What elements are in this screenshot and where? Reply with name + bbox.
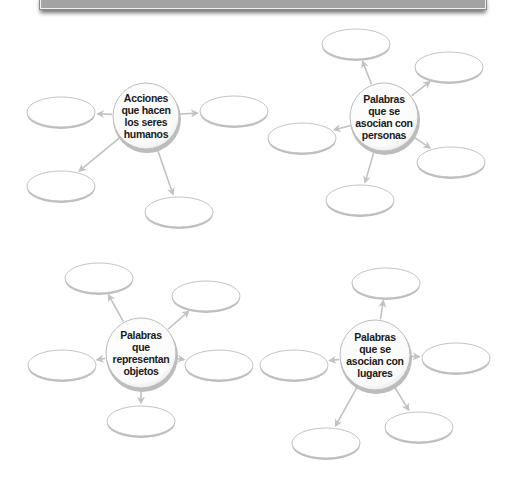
- answer-slot-objetos-3[interactable]: [185, 350, 253, 380]
- arrow-lugares-4: [394, 386, 409, 410]
- answer-slot-personas-2[interactable]: [268, 123, 336, 153]
- arrow-acciones-0: [98, 114, 112, 115]
- center-circle-personas: [350, 83, 420, 155]
- arrow-objetos-1: [168, 311, 188, 329]
- answer-slot-lugares-4[interactable]: [385, 412, 453, 442]
- arrow-personas-2: [334, 126, 350, 130]
- answer-slot-lugares-1[interactable]: [260, 350, 328, 380]
- answer-slot-acciones-2[interactable]: [27, 171, 95, 201]
- answer-slot-objetos-0[interactable]: [65, 263, 133, 293]
- answer-slots-layer: [27, 29, 490, 460]
- arrow-lugares-0: [380, 301, 383, 319]
- answer-slot-acciones-1[interactable]: [200, 96, 268, 126]
- center-circle-objetos: [106, 318, 178, 392]
- arrow-personas-4: [365, 151, 374, 183]
- arrow-acciones-2: [79, 138, 119, 171]
- answer-slot-lugares-2[interactable]: [422, 343, 490, 373]
- arrow-acciones-3: [157, 148, 173, 194]
- answer-slot-acciones-3[interactable]: [145, 197, 213, 227]
- answer-slot-objetos-4[interactable]: [107, 406, 175, 436]
- answer-slot-acciones-0[interactable]: [27, 97, 95, 127]
- answer-slot-objetos-1[interactable]: [172, 281, 240, 311]
- arrow-lugares-3: [336, 386, 358, 425]
- answer-slot-personas-4[interactable]: [326, 185, 394, 215]
- center-circles-layer: [106, 83, 420, 394]
- arrow-objetos-0: [109, 295, 124, 321]
- center-circle-lugares: [340, 320, 412, 394]
- answer-slot-objetos-2[interactable]: [28, 350, 96, 380]
- center-circle-acciones: [113, 83, 181, 153]
- arrow-personas-3: [413, 137, 430, 148]
- arrow-objetos-2: [97, 358, 105, 359]
- answer-slot-lugares-0[interactable]: [352, 268, 420, 298]
- answer-slot-personas-3[interactable]: [417, 147, 485, 177]
- answer-slot-personas-1[interactable]: [415, 52, 483, 82]
- answer-slot-personas-0[interactable]: [322, 29, 390, 59]
- arrow-acciones-1: [180, 113, 197, 114]
- arrow-lugares-1: [330, 359, 340, 360]
- arrow-personas-0: [363, 62, 372, 85]
- answer-slot-lugares-3[interactable]: [292, 428, 360, 458]
- arrow-personas-1: [412, 82, 430, 96]
